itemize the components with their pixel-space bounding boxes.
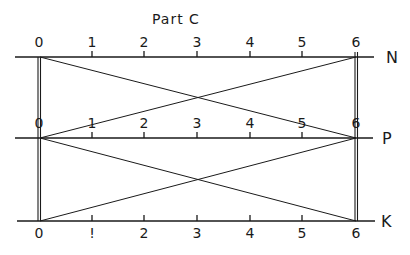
vertical-rail-6: [355, 52, 358, 221]
scale-k-label: K: [381, 212, 392, 231]
tick-label: 6: [352, 225, 361, 241]
tick-label: 6: [352, 115, 361, 131]
tick-label: 3: [193, 34, 202, 50]
tick-label: 5: [298, 225, 307, 241]
tick-label: 0: [35, 115, 44, 131]
tick-label: 1: [88, 34, 97, 50]
tick-label: 3: [193, 115, 202, 131]
tick-label: 2: [140, 34, 149, 50]
tick-label: 4: [246, 225, 255, 241]
tick-label: 3: [193, 225, 202, 241]
scale-p-label: P: [382, 129, 392, 148]
tick-label: 4: [246, 34, 255, 50]
scale-n-label: N: [386, 48, 398, 67]
tick-label: 4: [246, 115, 255, 131]
tick-label: 6: [352, 34, 361, 50]
tick-label: 2: [140, 115, 149, 131]
tick-label: 2: [140, 225, 149, 241]
connection-lines: [40, 57, 356, 221]
tick-label: !: [89, 225, 95, 241]
scale-k: 0 ! 2 3 4 5 6 K: [17, 212, 392, 241]
tick-label: 0: [35, 225, 44, 241]
diagram-title: Part C: [152, 11, 200, 27]
vertical-rail-0: [38, 57, 41, 221]
scale-n: 0 1 2 3 4 5 6 N: [15, 34, 398, 67]
tick-label: 0: [35, 34, 44, 50]
scale-k-ticks: [92, 215, 302, 221]
scale-n-ticks: [92, 51, 302, 57]
tick-label: 1: [88, 115, 97, 131]
nomograph-diagram: Part C 0 1 2 3 4 5 6 N 0 1 2 3: [0, 0, 410, 255]
tick-label: 5: [298, 34, 307, 50]
scale-p-ticks: [92, 132, 302, 138]
